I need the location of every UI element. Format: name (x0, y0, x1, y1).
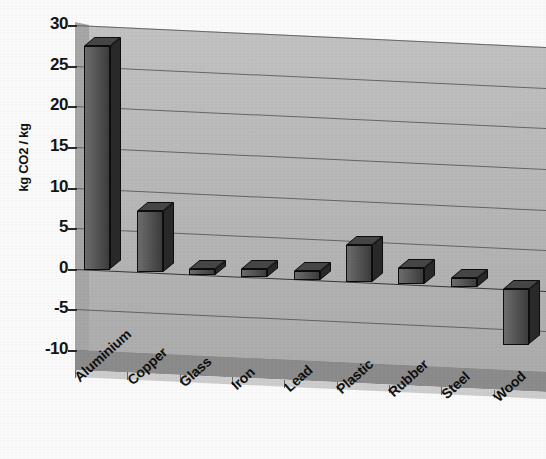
y-tick-label: 25 (26, 55, 68, 75)
bar-front-face (189, 269, 215, 275)
y-tick-mark (68, 147, 77, 149)
bar-front-face (294, 271, 320, 280)
y-tick-label: 30 (26, 14, 68, 34)
y-tick-mark (68, 350, 77, 352)
y-tick-label: -10 (26, 339, 68, 359)
bar-front-face (451, 278, 477, 287)
y-tick-mark (68, 269, 77, 271)
bar-iron (241, 260, 267, 277)
bar-steel (451, 269, 477, 287)
bar-side-face (529, 280, 540, 344)
y-tick-mark (68, 106, 77, 108)
bar-side-face (110, 37, 121, 269)
plot-area (75, 0, 546, 400)
bar-rubber (398, 259, 424, 284)
bar-wood (503, 280, 529, 344)
bar-front-face (241, 269, 267, 277)
y-tick-mark (68, 228, 77, 230)
bar-plastic (346, 236, 372, 282)
y-tick-mark (68, 188, 77, 190)
bar-lead (294, 262, 320, 280)
bar-front-face (346, 245, 372, 282)
bar-front-face (84, 46, 110, 269)
y-tick-label: 15 (26, 136, 68, 156)
y-tick-mark (68, 25, 77, 27)
y-tick-label: 0 (26, 258, 68, 278)
y-tick-label: 5 (26, 217, 68, 237)
bar-front-face (398, 268, 424, 284)
bar-glass (189, 260, 215, 275)
y-axis: 302520151050-5-10 (18, 0, 68, 459)
bar-front-face (503, 289, 529, 344)
y-tick-mark (68, 309, 77, 311)
y-tick-label: -5 (26, 298, 68, 318)
bar-front-face (137, 211, 163, 272)
y-tick-label: 20 (26, 95, 68, 115)
y-tick-label: 10 (26, 177, 68, 197)
bar-chart: kg CO2 / kg 302520151050-5-10 AluminiumC… (0, 0, 546, 459)
bar-aluminium (84, 37, 110, 269)
y-tick-mark (68, 66, 77, 68)
bar-side-face (163, 202, 174, 272)
bar-copper (137, 202, 163, 272)
